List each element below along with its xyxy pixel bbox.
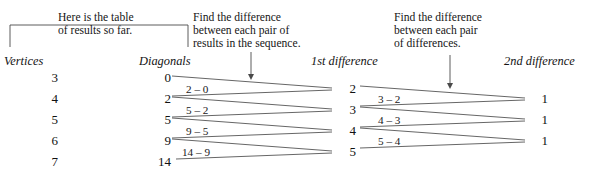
cell-diagonals: 0 [131, 70, 171, 86]
expression-second-difference: 5 – 4 [378, 135, 400, 147]
cell-diagonals: 9 [131, 133, 171, 149]
cell-first-difference: 2 [334, 81, 356, 97]
expression-first-difference: 9 – 5 [186, 125, 208, 137]
callout-second-difference-note: Find the difference between each pair of… [394, 11, 482, 51]
column-header-second-difference: 2nd difference [504, 54, 575, 69]
callout-second-difference-line1: Find the difference [394, 11, 482, 24]
cell-diagonals: 14 [131, 154, 171, 170]
expression-first-difference: 2 – 0 [186, 83, 208, 95]
callout-table-note-line1: Here is the table [58, 11, 134, 24]
cell-first-difference: 5 [334, 144, 356, 160]
cell-vertices: 4 [18, 91, 58, 107]
cell-first-difference: 4 [334, 123, 356, 139]
expression-first-difference: 14 – 9 [182, 146, 210, 158]
callout-second-difference-line3: of differences. [394, 37, 482, 50]
expression-first-difference: 5 – 2 [186, 104, 208, 116]
cell-second-difference: 1 [526, 133, 548, 149]
cell-diagonals: 5 [131, 112, 171, 128]
expression-second-difference: 4 – 3 [378, 114, 400, 126]
column-header-diagonals: Diagonals [139, 54, 191, 69]
expression-second-difference: 3 – 2 [378, 93, 400, 105]
cell-vertices: 7 [18, 154, 58, 170]
cell-second-difference: 1 [526, 91, 548, 107]
cell-diagonals: 2 [131, 91, 171, 107]
cell-vertices: 6 [18, 133, 58, 149]
callout-first-difference-line1: Find the difference [193, 11, 301, 24]
callout-first-difference-note: Find the difference between each pair of… [193, 11, 301, 51]
second-difference-arrowhead [447, 83, 453, 89]
callout-table-note: Here is the table of results so far. [58, 11, 134, 37]
callout-first-difference-line2: between each pair of [193, 24, 301, 37]
cell-vertices: 3 [18, 70, 58, 86]
callout-second-difference-line2: between each pair [394, 24, 482, 37]
difference-table-diagram: Here is the table of results so far. Fin… [0, 0, 593, 181]
callout-first-difference-line3: results in the sequence. [193, 37, 301, 50]
cell-second-difference: 1 [526, 112, 548, 128]
cell-vertices: 5 [18, 112, 58, 128]
column-header-first-difference: 1st difference [311, 54, 378, 69]
column-header-vertices: Vertices [4, 54, 43, 69]
callout-table-note-line2: of results so far. [58, 24, 134, 37]
first-difference-arrowhead [248, 74, 254, 80]
cell-first-difference: 3 [334, 102, 356, 118]
